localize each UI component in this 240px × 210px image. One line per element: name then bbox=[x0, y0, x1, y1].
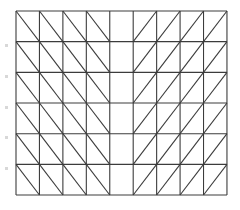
cell-diagonal-down bbox=[39, 11, 62, 42]
triangulated-grid bbox=[0, 0, 240, 210]
cell-diagonal-up bbox=[133, 134, 156, 165]
cell-diagonal-down bbox=[63, 164, 86, 195]
cell-diagonal-up bbox=[133, 103, 156, 134]
cell-diagonal-down bbox=[16, 42, 39, 73]
cell-diagonal-up bbox=[204, 72, 227, 103]
cell-diagonal-up bbox=[180, 11, 203, 42]
cell-diagonal-down bbox=[63, 72, 86, 103]
cell-diagonal-down bbox=[63, 134, 86, 165]
cell-diagonal-up bbox=[204, 134, 227, 165]
cell-diagonal-up bbox=[204, 42, 227, 73]
cell-diagonal-up bbox=[157, 103, 180, 134]
cell-diagonal-down bbox=[16, 72, 39, 103]
cell-diagonal-up bbox=[204, 103, 227, 134]
cell-diagonal-down bbox=[86, 103, 109, 134]
cell-diagonal-down bbox=[39, 134, 62, 165]
cell-diagonal-down bbox=[16, 164, 39, 195]
cell-diagonal-up bbox=[180, 134, 203, 165]
cell-diagonal-down bbox=[16, 11, 39, 42]
margin-tick-mark bbox=[5, 167, 8, 170]
cell-diagonal-up bbox=[180, 103, 203, 134]
cell-diagonal-up bbox=[157, 42, 180, 73]
cell-diagonal-down bbox=[63, 11, 86, 42]
cell-diagonal-down bbox=[63, 42, 86, 73]
cell-diagonal-down bbox=[86, 72, 109, 103]
margin-tick-mark bbox=[5, 75, 8, 78]
cell-diagonal-up bbox=[157, 134, 180, 165]
cell-diagonal-up bbox=[180, 42, 203, 73]
cell-diagonal-up bbox=[157, 72, 180, 103]
cell-diagonal-down bbox=[39, 164, 62, 195]
cell-diagonal-down bbox=[16, 103, 39, 134]
cell-diagonal-down bbox=[39, 42, 62, 73]
cell-diagonal-up bbox=[133, 11, 156, 42]
cell-diagonal-up bbox=[180, 72, 203, 103]
cell-diagonal-down bbox=[39, 103, 62, 134]
cell-diagonal-down bbox=[86, 134, 109, 165]
cell-diagonal-down bbox=[16, 134, 39, 165]
cell-diagonal-up bbox=[157, 11, 180, 42]
cell-diagonal-up bbox=[157, 164, 180, 195]
cell-diagonal-down bbox=[63, 103, 86, 134]
cell-diagonal-up bbox=[133, 72, 156, 103]
margin-tick-mark bbox=[5, 106, 8, 109]
cell-diagonal-down bbox=[86, 42, 109, 73]
cell-diagonal-down bbox=[39, 72, 62, 103]
margin-tick-mark bbox=[5, 44, 8, 47]
cell-diagonal-down bbox=[86, 11, 109, 42]
margin-tick-mark bbox=[5, 136, 8, 139]
cell-diagonal-down bbox=[86, 164, 109, 195]
cell-diagonal-up bbox=[133, 164, 156, 195]
cell-diagonal-up bbox=[133, 42, 156, 73]
cell-diagonal-up bbox=[180, 164, 203, 195]
cell-diagonal-up bbox=[204, 11, 227, 42]
cell-diagonal-up bbox=[204, 164, 227, 195]
